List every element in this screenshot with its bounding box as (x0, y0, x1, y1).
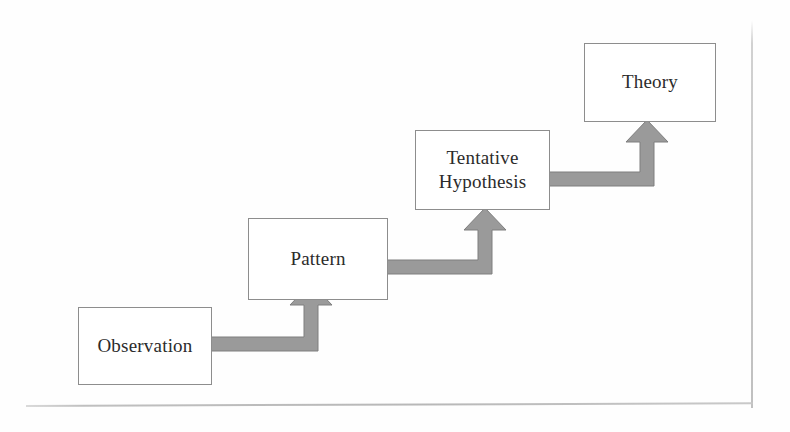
page-edge-right (751, 20, 753, 408)
node-pattern-label: Pattern (290, 247, 345, 271)
connector-pattern-to-hypothesis (382, 208, 512, 276)
node-pattern[interactable]: Pattern (248, 218, 388, 300)
node-theory-label: Theory (622, 70, 678, 94)
node-observation-label: Observation (97, 334, 192, 358)
node-observation[interactable]: Observation (78, 307, 212, 385)
connector-hypothesis-to-theory (544, 120, 674, 188)
node-tentative-hypothesis[interactable]: Tentative Hypothesis (415, 130, 550, 210)
node-theory[interactable]: Theory (584, 43, 716, 122)
diagram-canvas: Observation Pattern Tentative Hypothesis… (0, 0, 790, 432)
node-tentative-hypothesis-label: Tentative Hypothesis (439, 146, 527, 195)
page-edge-bottom (26, 402, 753, 407)
